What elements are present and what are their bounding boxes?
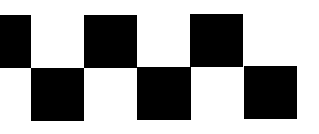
black-square xyxy=(190,14,243,67)
black-square xyxy=(244,66,297,119)
black-square xyxy=(84,15,137,68)
black-square xyxy=(137,67,191,120)
black-square xyxy=(31,68,84,121)
black-square xyxy=(0,15,31,68)
